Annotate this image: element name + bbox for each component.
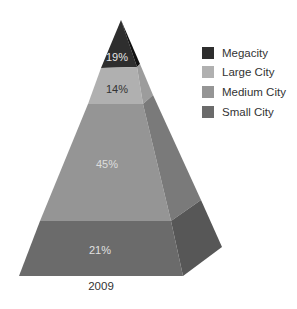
large-city-value-label: 14% bbox=[106, 83, 128, 95]
large-city-swatch bbox=[202, 66, 214, 78]
legend-label: Large City bbox=[222, 66, 274, 78]
legend-label: Medium City bbox=[222, 86, 286, 98]
legend-label: Megacity bbox=[222, 47, 268, 59]
medium-city-value-label: 45% bbox=[96, 158, 118, 170]
legend-item-large-city: Large City bbox=[202, 63, 286, 83]
megacity-value-label: 19% bbox=[106, 51, 128, 63]
legend-label: Small City bbox=[222, 106, 274, 118]
megacity-swatch bbox=[202, 47, 214, 59]
small-city-swatch bbox=[202, 106, 214, 118]
small-city-value-label: 21% bbox=[89, 244, 111, 256]
x-axis-label: 2009 bbox=[83, 280, 119, 292]
legend: Megacity Large City Medium City Small Ci… bbox=[202, 43, 286, 121]
legend-item-small-city: Small City bbox=[202, 102, 286, 122]
legend-item-megacity: Megacity bbox=[202, 43, 286, 63]
medium-city-swatch bbox=[202, 86, 214, 98]
legend-item-medium-city: Medium City bbox=[202, 82, 286, 102]
